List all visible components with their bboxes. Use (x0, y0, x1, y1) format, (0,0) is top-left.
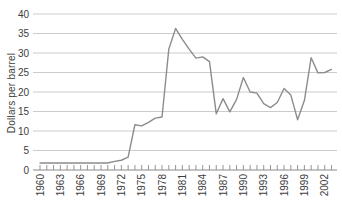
oil-price-chart-figure: Dollars per barrel 051015202530354019601… (0, 0, 342, 217)
y-tick-label: 15 (18, 106, 30, 117)
x-tick-label: 1996 (279, 174, 290, 197)
y-tick-label: 10 (18, 126, 30, 137)
x-tick-label: 1966 (75, 174, 86, 197)
price-line-series (40, 28, 332, 163)
oil-price-line-chart: 0510152025303540196019631966196919721975… (0, 0, 342, 217)
gridlines (33, 14, 337, 151)
x-tick-label: 1978 (157, 174, 168, 197)
x-tick-label: 1963 (55, 174, 66, 197)
x-tick-label: 1990 (238, 174, 249, 197)
x-tick-label: 1999 (299, 174, 310, 197)
y-tick-label: 25 (18, 67, 30, 78)
y-tick-labels: 0510152025303540 (18, 9, 30, 176)
x-tick-label: 1993 (258, 174, 269, 197)
x-tick-label: 1969 (96, 174, 107, 197)
x-tick-label: 1960 (35, 174, 46, 197)
y-tick-label: 30 (18, 48, 30, 59)
x-tick-label: 1984 (197, 174, 208, 197)
x-tick-labels: 1960196319661969197219751978198119841987… (35, 174, 331, 197)
x-axis-ticks (40, 165, 332, 170)
y-tick-label: 0 (23, 165, 29, 176)
x-tick-label: 1981 (177, 174, 188, 197)
x-tick-label: 1987 (218, 174, 229, 197)
price-line (40, 28, 332, 163)
y-axis-title: Dollars per barrel (6, 53, 17, 133)
y-tick-label: 5 (23, 145, 29, 156)
y-tick-label: 40 (18, 9, 30, 20)
x-tick-label: 1972 (116, 174, 127, 197)
x-tick-label: 1975 (136, 174, 147, 197)
x-tick-label: 2002 (319, 174, 330, 197)
y-tick-label: 35 (18, 28, 30, 39)
y-tick-label: 20 (18, 87, 30, 98)
